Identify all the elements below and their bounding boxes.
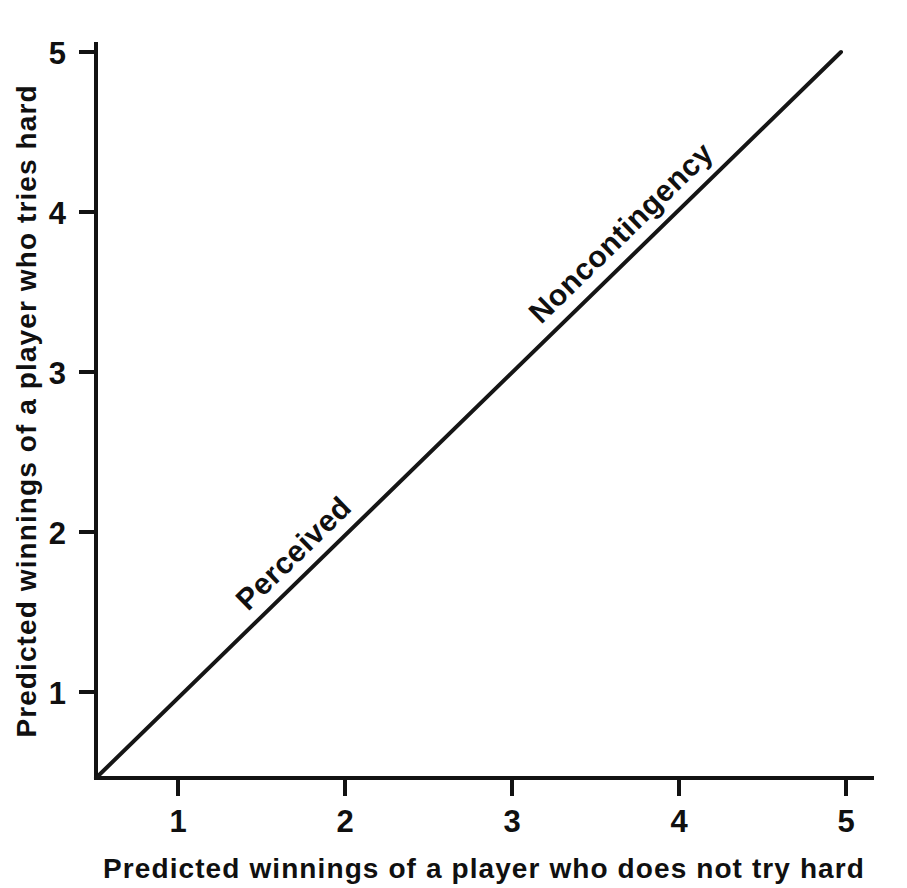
y-axis-title: Predicted winnings of a player who tries… (11, 84, 42, 737)
y-tick-label-4: 4 (49, 196, 67, 231)
y-tick-label-5: 5 (49, 36, 66, 71)
x-tick-label-3: 3 (503, 804, 520, 839)
annotation-perceived: Perceived (229, 490, 357, 616)
y-tick-label-1: 1 (49, 676, 66, 711)
x-axis-title: Predicted winnings of a player who does … (103, 853, 865, 884)
noncontingency-line (96, 52, 841, 778)
x-tick-label-4: 4 (670, 804, 688, 839)
plot-canvas: 5 4 3 2 1 1 2 3 4 5 Perceived Nonconting… (0, 0, 907, 888)
x-tick-label-5: 5 (837, 804, 854, 839)
x-tick-label-1: 1 (169, 804, 186, 839)
y-tick-label-3: 3 (49, 356, 66, 391)
annotation-noncontingency: Noncontingency (522, 136, 719, 330)
y-tick-label-2: 2 (49, 516, 66, 551)
x-tick-label-2: 2 (336, 804, 353, 839)
chart-figure: 5 4 3 2 1 1 2 3 4 5 Perceived Nonconting… (0, 0, 907, 888)
